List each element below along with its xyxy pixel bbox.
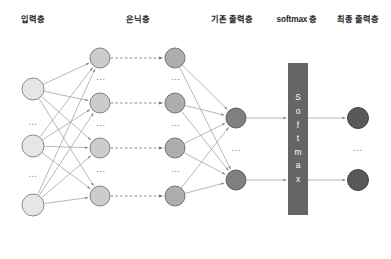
- softmax-block: S o f t m a x: [288, 63, 308, 215]
- node-hidden-a-1: [90, 48, 111, 69]
- softmax-letter-o: o: [296, 105, 301, 119]
- neural-network-diagram: 입력층 은닉층 기존 출력층 softmax 층 최종 출력층 S o f t …: [0, 0, 391, 259]
- node-hidden-b-1: [165, 48, 186, 69]
- edge-input-hidden-3-3: [42, 156, 91, 198]
- ellipsis-hidden-b-2: ⋮: [171, 121, 180, 131]
- node-legacy-output-1: [226, 108, 247, 129]
- ellipsis-input-2: ⋯: [28, 172, 38, 181]
- node-final-output-2: [347, 169, 369, 191]
- edge-input-hidden-1-4: [39, 99, 94, 186]
- node-hidden-a-4: [90, 186, 111, 207]
- ellipsis-final-output-1: ⋯: [353, 146, 363, 155]
- softmax-letter-m: m: [295, 146, 302, 160]
- node-legacy-output-2: [226, 170, 247, 191]
- node-hidden-b-3: [165, 138, 186, 159]
- edge-hidden-output-3-2: [184, 153, 225, 175]
- node-hidden-a-3: [90, 138, 111, 159]
- edge-hidden-output-1-1: [182, 65, 227, 109]
- edge-hidden-output-4-2: [185, 183, 224, 193]
- ellipsis-hidden-a-3: ⋮: [96, 167, 105, 177]
- edge-input-hidden-2-2: [43, 109, 90, 139]
- edge-hidden-output-2-2: [182, 111, 229, 170]
- edge-input-hidden-3-1: [38, 69, 95, 195]
- node-hidden-b-2: [165, 93, 186, 114]
- node-input-2: [22, 135, 45, 158]
- ellipsis-hidden-b-3: ⋮: [171, 167, 180, 177]
- edge-canvas: [0, 0, 391, 259]
- softmax-letter-a: a: [296, 159, 301, 173]
- edge-input-hidden-3-4: [44, 198, 88, 204]
- node-input-1: [22, 78, 45, 101]
- edge-input-hidden-3-2: [39, 113, 93, 195]
- edge-input-hidden-2-4: [42, 153, 90, 189]
- edge-hidden-output-4-1: [181, 127, 228, 187]
- ellipsis-legacy-output-1: ⋯: [231, 146, 241, 155]
- softmax-letter-s: S: [295, 91, 301, 105]
- ellipsis-input-1: ⋯: [28, 120, 38, 129]
- ellipsis-hidden-b-1: ⋮: [171, 75, 180, 85]
- node-final-output-1: [347, 107, 369, 129]
- edge-input-hidden-2-3: [44, 146, 88, 147]
- softmax-letter-t: t: [297, 132, 299, 146]
- ellipsis-hidden-a-1: ⋮: [96, 75, 105, 85]
- edge-input-hidden-1-2: [44, 91, 88, 100]
- softmax-letter-f: f: [297, 119, 299, 133]
- edges-dashed-group: [111, 58, 164, 196]
- edge-input-hidden-1-3: [42, 97, 91, 140]
- node-hidden-b-4: [165, 186, 186, 207]
- edge-hidden-output-2-1: [185, 106, 224, 116]
- ellipsis-hidden-a-2: ⋮: [96, 121, 105, 131]
- softmax-letter-x: x: [296, 173, 300, 187]
- node-input-3: [22, 194, 45, 217]
- node-hidden-a-2: [90, 93, 111, 114]
